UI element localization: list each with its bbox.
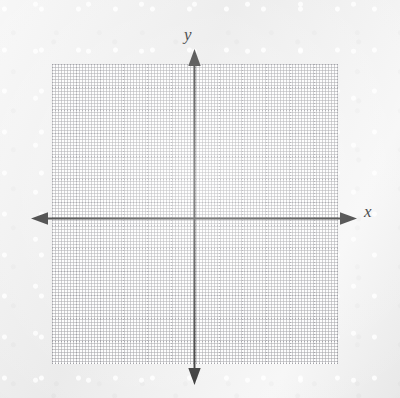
grid-line-horizontal xyxy=(52,318,338,319)
grid-line-horizontal xyxy=(52,363,338,364)
grid-line-horizontal xyxy=(52,225,338,226)
coordinate-plane-figure: y x xyxy=(0,0,400,398)
grid-panel xyxy=(52,64,338,364)
grid-line-horizontal xyxy=(52,179,338,180)
grid-horizontal-lines xyxy=(52,64,338,364)
grid-line-horizontal xyxy=(52,156,338,157)
grid-line-horizontal xyxy=(52,271,338,272)
y-axis-label: y xyxy=(184,26,192,43)
x-axis-right-arrowhead xyxy=(340,212,357,225)
grid-line-horizontal xyxy=(52,110,338,111)
x-axis-label: x xyxy=(364,203,372,220)
grid-line-horizontal xyxy=(52,133,338,134)
grid-line-horizontal xyxy=(52,295,338,296)
grid-line-horizontal xyxy=(52,341,338,342)
y-axis-down-arrowhead xyxy=(188,368,200,385)
grid-line-horizontal xyxy=(52,64,338,65)
grid-line-horizontal xyxy=(52,202,338,203)
grid-line-horizontal xyxy=(52,248,338,249)
x-axis-left-arrowhead xyxy=(31,212,48,225)
grid-line-horizontal xyxy=(52,87,338,88)
